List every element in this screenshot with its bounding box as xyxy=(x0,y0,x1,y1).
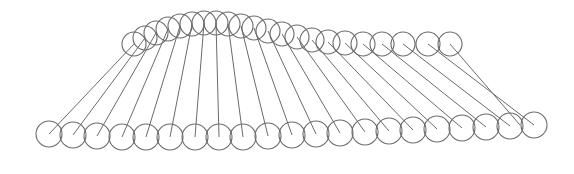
connecting-line xyxy=(268,31,316,134)
connecting-line xyxy=(97,33,156,136)
connecting-line xyxy=(254,28,292,135)
drawing-canvas xyxy=(0,0,574,174)
connecting-line xyxy=(195,23,204,137)
circles-and-lines-drawing xyxy=(0,0,574,174)
connecting-line xyxy=(73,38,145,135)
connecting-line xyxy=(282,34,340,133)
connecting-line xyxy=(345,43,437,129)
connecting-line xyxy=(228,24,243,137)
connecting-line xyxy=(403,44,510,126)
connecting-line xyxy=(170,24,192,137)
connecting-line xyxy=(363,44,462,128)
connecting-line xyxy=(216,23,219,137)
connecting-line xyxy=(122,29,168,137)
connecting-line xyxy=(49,44,134,134)
